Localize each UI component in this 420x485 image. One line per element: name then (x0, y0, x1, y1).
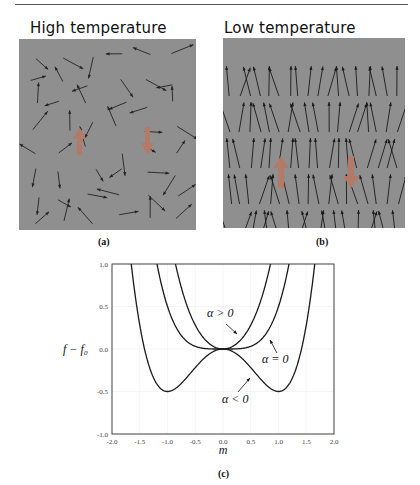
y-tick-label: 1.0 (99, 261, 108, 269)
x-tick-label: 1.5 (302, 438, 311, 446)
free-energy-chart: -2.0-1.5-1.0-0.50.00.51.01.52.0-1.0-0.50… (0, 0, 420, 485)
x-tick-label: -0.5 (190, 438, 202, 446)
y-tick-label: -0.5 (97, 388, 109, 396)
x-axis-label: m (219, 443, 228, 457)
y-tick-label: -1.0 (97, 431, 109, 439)
x-tick-label: 1.0 (274, 438, 283, 446)
caption-c: (c) (218, 468, 229, 479)
y-tick-label: 0.5 (99, 303, 108, 311)
annotation-label: α = 0 (262, 352, 288, 366)
annotation-label: α < 0 (222, 392, 248, 406)
y-tick-label: 0.0 (99, 346, 108, 354)
x-tick-label: -1.5 (134, 438, 146, 446)
x-tick-label: -1.0 (162, 438, 174, 446)
x-tick-label: 2.0 (330, 438, 339, 446)
x-tick-label: -2.0 (106, 438, 118, 446)
y-axis-label: f − f₀ (63, 342, 88, 356)
annotation-label: α > 0 (207, 306, 233, 320)
x-tick-label: 0.5 (246, 438, 255, 446)
